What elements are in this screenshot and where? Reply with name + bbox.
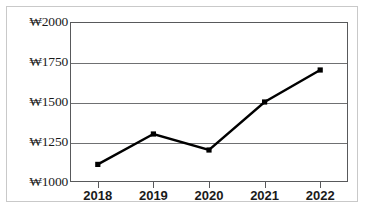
series-markers xyxy=(95,67,323,167)
y-axis-tick-label: ₩1500 xyxy=(4,95,68,109)
data-point-marker xyxy=(95,162,100,167)
data-point-marker xyxy=(318,67,323,72)
data-point-marker xyxy=(262,99,267,104)
x-axis-tick-label: 2018 xyxy=(68,189,128,202)
x-axis-tick-label: 2020 xyxy=(179,189,239,202)
data-series-line xyxy=(70,22,348,182)
y-axis-tick-label: ₩1250 xyxy=(4,135,68,149)
x-axis-tick-label: 2021 xyxy=(235,189,295,202)
y-axis-tick-label: ₩1000 xyxy=(4,175,68,189)
y-axis-tick-label: ₩1750 xyxy=(4,55,68,69)
data-point-marker xyxy=(206,147,211,152)
y-axis-tick-label: ₩2000 xyxy=(4,15,68,29)
chart-figure: ₩1000₩1250₩1500₩1750₩2000 20182019202020… xyxy=(0,0,366,214)
x-axis-tick-label: 2022 xyxy=(290,189,350,202)
x-axis-tick-label: 2019 xyxy=(123,189,183,202)
data-point-marker xyxy=(151,131,156,136)
